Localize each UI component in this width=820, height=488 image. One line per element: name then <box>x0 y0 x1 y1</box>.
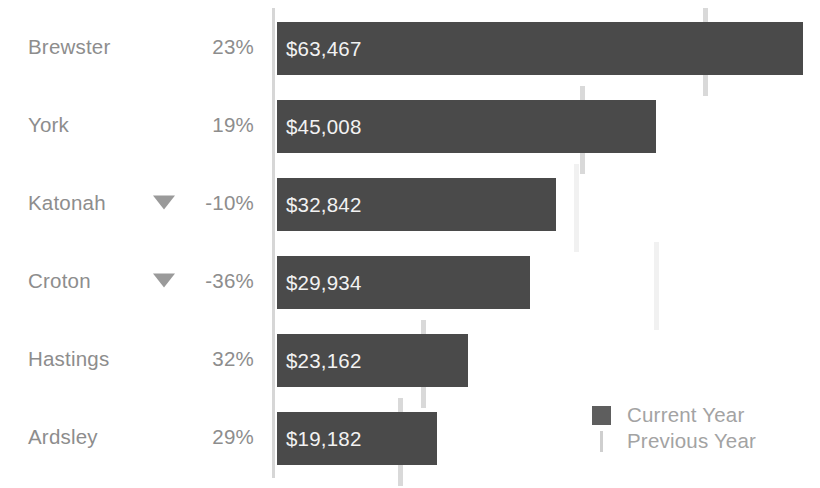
bar-value-label: $63,467 <box>286 37 362 61</box>
bar-current-year[interactable]: $19,182 <box>277 412 437 465</box>
legend-item-current-year[interactable]: Current Year <box>592 402 812 428</box>
legend-label-current-year: Current Year <box>627 403 745 427</box>
value-axis-line <box>272 8 275 478</box>
legend-item-previous-year[interactable]: Previous Year <box>592 428 812 454</box>
category-label: Ardsley <box>28 425 98 449</box>
delta-percent-label: 29% <box>134 425 254 449</box>
delta-percent-label: 19% <box>134 113 254 137</box>
bar-value-label: $45,008 <box>286 115 362 139</box>
category-label: Brewster <box>28 35 110 59</box>
delta-percent-label: -10% <box>134 191 254 215</box>
legend-swatch-previous-year-icon <box>592 432 611 451</box>
category-label: Croton <box>28 269 91 293</box>
bar-current-year[interactable]: $32,842 <box>277 178 556 231</box>
bar-chart: Brewster23%York19%Katonah-10%Croton-36%H… <box>0 0 820 488</box>
bar-value-label: $23,162 <box>286 349 362 373</box>
bar-value-label: $32,842 <box>286 193 362 217</box>
previous-year-marker <box>574 164 579 252</box>
previous-year-marker <box>654 242 659 330</box>
legend-swatch-current-year-icon <box>592 406 611 425</box>
category-label: Katonah <box>28 191 106 215</box>
bar-value-label: $19,182 <box>286 427 362 451</box>
category-label: Hastings <box>28 347 109 371</box>
delta-percent-label: 23% <box>134 35 254 59</box>
delta-percent-label: -36% <box>134 269 254 293</box>
delta-percent-label: 32% <box>134 347 254 371</box>
bar-current-year[interactable]: $45,008 <box>277 100 656 153</box>
category-label: York <box>28 113 69 137</box>
bar-value-label: $29,934 <box>286 271 362 295</box>
legend-label-previous-year: Previous Year <box>627 429 756 453</box>
bar-current-year[interactable]: $23,162 <box>277 334 468 387</box>
bar-current-year[interactable]: $63,467 <box>277 22 803 75</box>
chart-legend: Current Year Previous Year <box>592 402 812 454</box>
bar-current-year[interactable]: $29,934 <box>277 256 530 309</box>
